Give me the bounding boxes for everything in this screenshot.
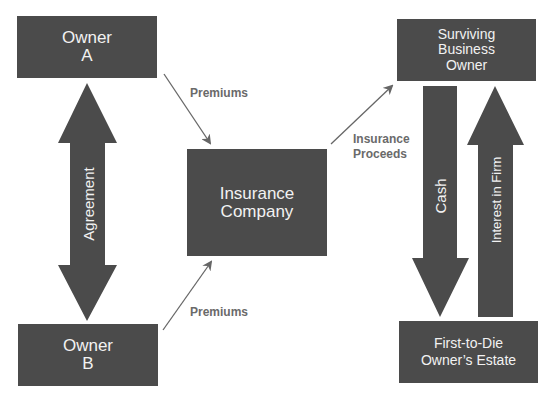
agreement-label: Agreement xyxy=(80,167,97,240)
surviving-owner-line3: Owner xyxy=(446,58,487,73)
insurance-company-box: Insurance Company xyxy=(187,149,327,256)
owner-a-line2: A xyxy=(81,47,92,65)
proceeds-label-line1: Insurance xyxy=(353,132,410,147)
proceeds-label: Insurance Proceeds xyxy=(353,132,410,162)
insurance-company-line1: Insurance xyxy=(220,185,295,203)
owner-a-line1: Owner xyxy=(62,29,112,47)
owner-b-box: Owner B xyxy=(18,324,158,386)
premiums-a-label: Premiums xyxy=(190,86,248,101)
estate-box: First-to-Die Owner’s Estate xyxy=(399,321,538,383)
surviving-owner-line2: Business xyxy=(438,42,495,57)
owner-b-line2: B xyxy=(82,355,93,373)
surviving-owner-line1: Surviving xyxy=(438,27,496,42)
cash-label: Cash xyxy=(432,178,449,213)
surviving-owner-box: Surviving Business Owner xyxy=(397,19,536,81)
insurance-company-line2: Company xyxy=(221,203,294,221)
premiums-b-label: Premiums xyxy=(190,305,248,320)
proceeds-label-line2: Proceeds xyxy=(353,147,410,162)
interest-in-firm-label: Interest in Firm xyxy=(489,157,504,244)
estate-line1: First-to-Die xyxy=(434,335,503,352)
estate-line2: Owner’s Estate xyxy=(421,352,516,369)
owner-b-line1: Owner xyxy=(63,337,113,355)
owner-a-box: Owner A xyxy=(17,16,157,78)
premiums-a-arrow xyxy=(164,74,210,143)
